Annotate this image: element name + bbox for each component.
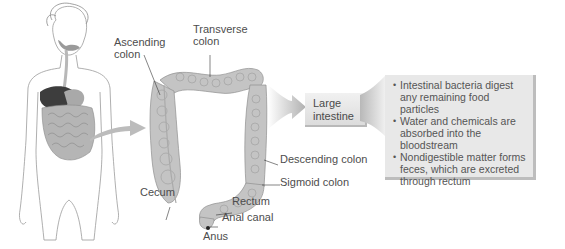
organ-box-line2: intestine <box>313 110 365 123</box>
label-anus: Anus <box>203 230 228 242</box>
function-item: Intestinal bacteria digest any remaining… <box>393 79 529 115</box>
large-intestine-diagram: Ascending colon Transverse colon Descend… <box>0 0 565 249</box>
label-cecum: Cecum <box>140 186 175 198</box>
funnel-arrow-icon <box>268 85 308 129</box>
label-anal-canal: Anal canal <box>222 211 273 223</box>
label-transverse-colon: Transverse colon <box>193 23 248 47</box>
organ-box-large-intestine: Large intestine <box>305 93 367 127</box>
organ-box-line1: Large <box>313 97 365 110</box>
function-item: Water and chemicals are absorbed into th… <box>393 115 529 151</box>
label-rectum: Rectum <box>232 195 270 207</box>
funnel-connector <box>360 75 386 137</box>
function-item: Nondigestible matter forms feces, which … <box>393 151 529 187</box>
label-descending-colon: Descending colon <box>280 153 367 165</box>
functions-box: Intestinal bacteria digest any remaining… <box>385 75 536 180</box>
label-sigmoid-colon: Sigmoid colon <box>280 176 349 188</box>
label-ascending-colon: Ascending colon <box>114 36 174 60</box>
functions-list: Intestinal bacteria digest any remaining… <box>393 79 529 187</box>
